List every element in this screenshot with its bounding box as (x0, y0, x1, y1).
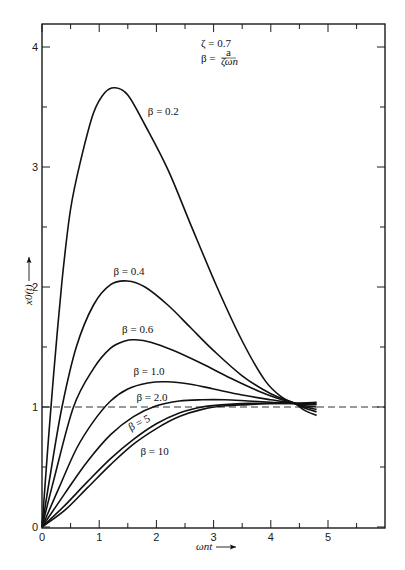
beta-definition: β = a ζωn (201, 46, 239, 68)
plot-frame (42, 24, 385, 528)
x-tick-label: 0 (39, 531, 45, 543)
y-tick-label: 3 (32, 161, 38, 173)
curve-label-4: β = 2.0 (136, 391, 168, 403)
curve-label-3: β = 1.0 (134, 365, 166, 377)
y-axis-label: x0(t) (22, 284, 35, 306)
axes-frame (42, 24, 385, 528)
x-tick-label: 2 (153, 531, 159, 543)
response-curve-5 (42, 403, 317, 527)
x-axis-label: ωnt (196, 540, 213, 552)
response-curve-6 (42, 402, 317, 527)
x-tick-label: 1 (96, 531, 102, 543)
x-tick-label: 5 (325, 531, 331, 543)
step-response-chart: 01234501234 β = 0.2β = 0.4β = 0.6β = 1.0… (0, 0, 405, 570)
curve-label-6: β = 10 (140, 445, 169, 457)
response-curve-2 (42, 340, 317, 527)
curve-label-0: β = 0.2 (148, 105, 179, 117)
y-tick-label: 0 (32, 521, 38, 533)
curves-layer (42, 88, 317, 527)
y-tick-label: 4 (32, 41, 38, 53)
beta-definition-lhs: β = (201, 52, 216, 64)
beta-definition-denominator: ζωn (221, 55, 239, 68)
curve-label-1: β = 0.4 (114, 265, 146, 277)
curve-label-2: β = 0.6 (122, 323, 154, 335)
y-tick-label: 1 (32, 401, 38, 413)
response-curve-4 (42, 400, 317, 527)
x-tick-label: 4 (268, 531, 274, 543)
response-curve-0 (42, 88, 317, 527)
